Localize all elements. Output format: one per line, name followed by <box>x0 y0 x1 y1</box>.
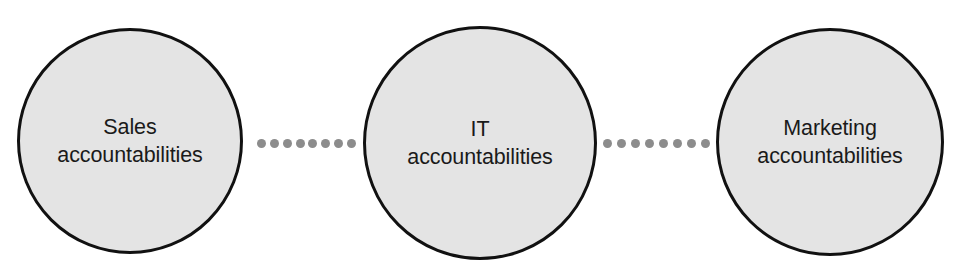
connector-dot <box>296 139 305 148</box>
connector-dot <box>334 139 343 148</box>
connector-dot <box>673 139 682 148</box>
connector-dot <box>283 139 292 148</box>
connector-dot <box>659 139 668 148</box>
connector-dot <box>321 139 330 148</box>
connector-dot <box>617 139 626 148</box>
connector-it-marketing <box>603 137 710 149</box>
node-marketing-label: Marketing accountabilities <box>757 114 902 170</box>
connector-dot <box>701 139 710 148</box>
connector-dot <box>645 139 654 148</box>
node-it-label: IT accountabilities <box>407 115 552 171</box>
connector-dot <box>257 139 266 148</box>
node-sales[interactable]: Sales accountabilities <box>17 28 243 254</box>
node-it[interactable]: IT accountabilities <box>363 26 597 260</box>
connector-sales-it <box>257 137 356 149</box>
connector-dot <box>687 139 696 148</box>
connector-dot <box>270 139 279 148</box>
node-marketing[interactable]: Marketing accountabilities <box>716 28 944 256</box>
connector-dot <box>603 139 612 148</box>
accountabilities-diagram: Sales accountabilities IT accountabiliti… <box>0 0 956 275</box>
connector-dot <box>631 139 640 148</box>
connector-dot <box>308 139 317 148</box>
connector-dot <box>347 139 356 148</box>
node-sales-label: Sales accountabilities <box>57 113 202 169</box>
